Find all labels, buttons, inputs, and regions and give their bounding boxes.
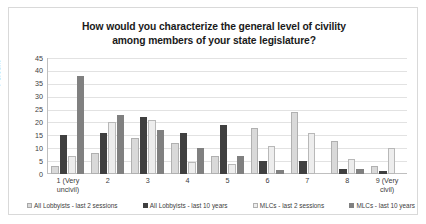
y-axis-tick-label: 45 [21, 55, 43, 62]
bar [228, 164, 236, 174]
bar [77, 76, 85, 174]
y-axis-tick-label: 25 [21, 106, 43, 113]
legend-swatch-icon [349, 203, 354, 208]
bar [237, 156, 245, 174]
bar [108, 122, 116, 174]
bar-group [367, 58, 407, 174]
legend-item[interactable]: All Lobbyists - last 2 sessions [27, 202, 117, 209]
x-axis-tick-label: 6 [247, 177, 287, 194]
bar-group [247, 58, 287, 174]
bar [171, 143, 179, 174]
x-axis-tick-label: 7 [287, 177, 327, 194]
bar [308, 133, 316, 174]
bar [157, 130, 165, 174]
legend-item[interactable]: All Lobbyists - last 10 years [143, 202, 228, 209]
bar-group [327, 58, 367, 174]
y-axis-tick-labels: 454035302520151050 [19, 58, 43, 174]
chart-legend: All Lobbyists - last 2 sessionsAll Lobby… [23, 202, 419, 209]
y-axis-tick-label: 40 [21, 67, 43, 74]
chart-container: How would you characterize the general l… [8, 7, 418, 215]
bar [51, 166, 59, 174]
bar-group [88, 58, 128, 174]
legend-item-label: All Lobbyists - last 10 years [150, 202, 228, 209]
bar [379, 171, 387, 174]
x-axis-tick-label: 5 [208, 177, 248, 194]
x-axis-tick-labels: 1 (Veryuncivil)23456789 (Verycivil) [48, 177, 407, 194]
y-axis-tick-label: 20 [21, 119, 43, 126]
legend-swatch-icon [143, 203, 148, 208]
bar [388, 148, 396, 174]
bar [259, 161, 267, 174]
legend-swatch-icon [27, 203, 32, 208]
x-axis-tick-label: 2 [88, 177, 128, 194]
y-axis-tick-label: 35 [21, 80, 43, 87]
x-axis-tick-label: 4 [168, 177, 208, 194]
bar [348, 159, 356, 174]
bar [131, 138, 139, 174]
bar [100, 133, 108, 174]
bar [339, 169, 347, 174]
bar [180, 133, 188, 174]
y-axis-tick-label: 5 [21, 158, 43, 165]
y-axis-tick-label: 0 [21, 171, 43, 178]
y-axis-tick-label: 10 [21, 145, 43, 152]
bar-group [48, 58, 88, 174]
bar-groups [48, 58, 407, 174]
bar [291, 112, 299, 174]
bar [91, 153, 99, 174]
bar-group [287, 58, 327, 174]
legend-item-label: MLCs - last 2 sessions [260, 202, 324, 209]
legend-item-label: MLCs - last 10 years [356, 202, 415, 209]
y-axis-label: Percent [0, 61, 2, 86]
bar [299, 161, 307, 174]
bar [60, 135, 68, 174]
chart-title: How would you characterize the general l… [27, 20, 401, 48]
bar [148, 120, 156, 174]
legend-item[interactable]: MLCs - last 10 years [349, 202, 415, 209]
chart-title-line-2: among members of your state legislature? [27, 34, 401, 48]
legend-item-label: All Lobbyists - last 2 sessions [34, 202, 117, 209]
bar-group [168, 58, 208, 174]
x-axis-tick-label: 9 (Verycivil) [367, 177, 407, 194]
bar [331, 141, 339, 175]
legend-swatch-icon [253, 203, 258, 208]
x-axis-tick-label: 8 [327, 177, 367, 194]
bar-group [208, 58, 248, 174]
bar [276, 170, 284, 174]
bar [68, 156, 76, 174]
chart-title-line-1: How would you characterize the general l… [27, 20, 401, 34]
bar-group [128, 58, 168, 174]
y-axis-tick-label: 15 [21, 132, 43, 139]
x-axis-tick-label: 3 [128, 177, 168, 194]
x-axis-tick-label: 1 (Veryuncivil) [48, 177, 88, 194]
bar [117, 115, 125, 174]
legend-item[interactable]: MLCs - last 2 sessions [253, 202, 324, 209]
bar [188, 162, 196, 174]
bar [356, 169, 364, 174]
bar [220, 125, 228, 174]
bar [251, 128, 259, 174]
y-axis-tick-label: 30 [21, 93, 43, 100]
bar [211, 156, 219, 174]
bar [268, 146, 276, 174]
bar [140, 117, 148, 174]
bar [197, 148, 205, 174]
bar [371, 166, 379, 174]
